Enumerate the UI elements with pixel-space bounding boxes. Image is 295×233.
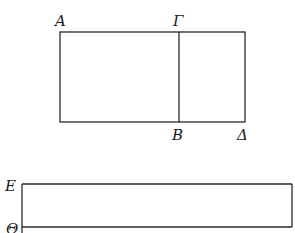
label-a: Α xyxy=(53,12,66,30)
label-gamma: Γ xyxy=(172,12,184,30)
label-delta: Δ xyxy=(236,126,248,144)
label-theta: Θ xyxy=(6,220,18,233)
label-e: Ε xyxy=(4,177,16,195)
label-b: Β xyxy=(171,126,183,144)
bottom-figure: Ε Θ xyxy=(4,177,292,233)
diagram-canvas: Α Γ Β Δ Ε Θ xyxy=(0,0,295,233)
top-figure: Α Γ Β Δ xyxy=(53,12,248,144)
outer-rectangle xyxy=(60,32,245,122)
